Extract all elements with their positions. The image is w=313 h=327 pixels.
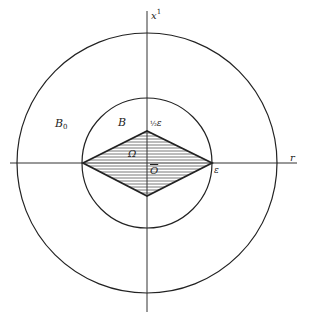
- vertical-axis-label: x1: [151, 9, 161, 21]
- top-vertex-label: ½ε: [150, 119, 162, 128]
- epsilon-symbol: ε: [214, 165, 219, 175]
- origin-label: O: [150, 166, 158, 176]
- b0-symbol: B: [55, 117, 63, 130]
- right-vertex-label: ε: [214, 166, 219, 175]
- outer-region-label: B0: [55, 118, 68, 131]
- origin-symbol: O: [150, 165, 158, 176]
- epsilon-symbol: ε: [157, 118, 162, 128]
- diagram-canvas: [0, 0, 313, 327]
- x-superscript: 1: [157, 8, 161, 16]
- half-fraction: ½: [150, 120, 157, 128]
- horizontal-axis-label: r: [290, 153, 295, 163]
- b-symbol: B: [118, 116, 126, 129]
- r-symbol: r: [290, 152, 295, 163]
- omega-symbol: Ω: [128, 148, 136, 159]
- b0-subscript: 0: [63, 123, 67, 131]
- domain-label: Ω: [128, 149, 136, 159]
- inner-region-label: B: [118, 117, 126, 128]
